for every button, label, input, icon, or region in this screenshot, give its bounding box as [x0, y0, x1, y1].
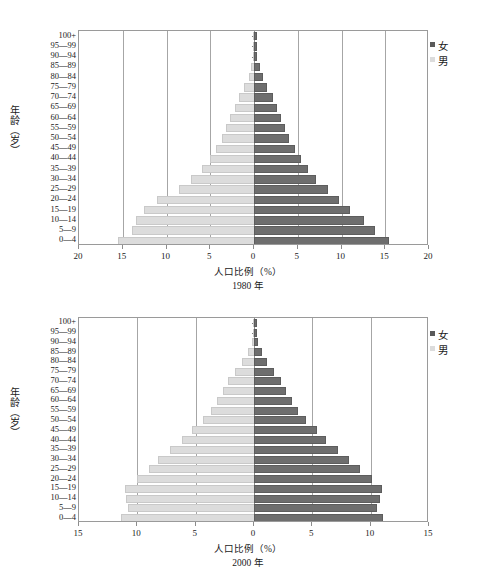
bar-female	[254, 407, 298, 415]
pyramid-row	[79, 514, 427, 522]
legend-swatch-male-icon	[430, 57, 435, 62]
x-axis-tick-mark	[297, 245, 298, 249]
pyramid-row	[79, 226, 427, 234]
y-axis-tick-label: 70—74	[51, 376, 77, 385]
legend-swatch-female-icon	[430, 42, 435, 47]
pyramid-row	[79, 196, 427, 204]
legend-item-female-1980: 女	[430, 38, 448, 53]
bar-female	[254, 52, 257, 60]
bar-male	[182, 436, 256, 444]
y-axis-tick-labels-2000: 100+95—9990—9485—8980—8475—7970—7465—696…	[32, 317, 76, 522]
bar-female	[254, 426, 317, 434]
x-axis-tick-label: 15	[117, 251, 126, 261]
bar-male	[230, 114, 256, 122]
x-axis-tick-mark	[253, 245, 254, 249]
x-axis-tick-mark	[428, 522, 429, 526]
x-axis-tick-label: 10	[365, 528, 374, 538]
y-axis-tick-label: 45—49	[51, 143, 77, 152]
pyramid-row	[79, 216, 427, 224]
y-axis-title-1980: 年龄（岁）	[6, 105, 21, 155]
bar-female	[254, 368, 274, 376]
bar-female	[254, 63, 260, 71]
legend-swatch-female-icon	[430, 331, 435, 336]
legend-item-male-1980: 男	[430, 53, 448, 68]
bar-male	[125, 485, 257, 493]
bar-female	[254, 436, 326, 444]
y-axis-tick-label: 95—99	[51, 327, 77, 336]
bar-female	[254, 456, 349, 464]
legend-label-female: 女	[438, 38, 448, 53]
y-axis-tick-label: 80—84	[51, 72, 77, 81]
bar-female	[254, 104, 277, 112]
pyramid-row	[79, 42, 427, 50]
x-axis-title-1980: 人口比例（%）	[0, 264, 496, 278]
x-axis-tick-label: 5	[309, 528, 314, 538]
year-label-2000: 2000 年	[0, 555, 496, 569]
bar-female	[254, 165, 308, 173]
population-pyramid-figure: 年龄（岁） 100+95—9990—9485—8980—8475—7970—74…	[0, 0, 496, 583]
y-axis-tick-labels-1980: 100+95—9990—9485—8980—8475—7970—7465—696…	[32, 30, 76, 245]
pyramid-row	[79, 93, 427, 101]
bar-male	[217, 397, 256, 405]
pyramid-row	[79, 83, 427, 91]
bar-male	[136, 216, 256, 224]
pyramid-row	[79, 426, 427, 434]
pyramid-row	[79, 52, 427, 60]
y-axis-tick-label: 30—34	[51, 454, 77, 463]
y-axis-tick-label: 50—54	[51, 133, 77, 142]
bar-female	[254, 514, 383, 522]
y-axis-tick-label: 10—14	[51, 493, 77, 502]
y-axis-tick-label: 20—24	[51, 194, 77, 203]
y-axis-tick-label: 75—79	[51, 82, 77, 91]
pyramid-row	[79, 475, 427, 483]
pyramid-row	[79, 397, 427, 405]
bar-male	[132, 226, 257, 234]
bar-female	[254, 93, 273, 101]
bar-male	[226, 124, 256, 132]
y-axis-tick-label: 95—99	[51, 41, 77, 50]
y-axis-tick-label: 0—4	[59, 513, 76, 522]
bar-female	[254, 114, 281, 122]
pyramid-row	[79, 348, 427, 356]
bar-female	[254, 237, 389, 245]
x-axis-tick-label: 0	[251, 251, 256, 261]
y-axis-tick-label: 45—49	[51, 425, 77, 434]
pyramid-row	[79, 495, 427, 503]
pyramid-row	[79, 465, 427, 473]
legend-label-male: 男	[438, 342, 448, 357]
bar-male	[202, 165, 256, 173]
bar-male	[144, 206, 256, 214]
x-axis-tick-mark	[136, 522, 137, 526]
bar-female	[254, 185, 328, 193]
bar-female	[254, 377, 281, 385]
pyramid-row	[79, 32, 427, 40]
bar-male	[128, 504, 256, 512]
pyramid-row	[79, 416, 427, 424]
y-axis-tick-label: 55—59	[51, 123, 77, 132]
bar-male	[121, 514, 256, 522]
x-axis-tick-label: 15	[424, 528, 433, 538]
bar-male	[228, 377, 256, 385]
legend-swatch-male-icon	[430, 346, 435, 351]
chart-2000: 年龄（岁） 100+95—9990—9485—8980—8475—7970—74…	[0, 292, 496, 583]
y-axis-tick-label: 0—4	[59, 235, 76, 244]
bar-female	[254, 226, 375, 234]
y-axis-tick-label: 70—74	[51, 92, 77, 101]
bar-female	[254, 32, 257, 40]
bar-female	[254, 495, 380, 503]
bar-female	[254, 206, 350, 214]
pyramid-row	[79, 145, 427, 153]
legend-label-female: 女	[438, 327, 448, 342]
y-axis-tick-label: 80—84	[51, 356, 77, 365]
legend-item-female-2000: 女	[430, 327, 448, 342]
bar-female	[254, 446, 338, 454]
bar-male	[158, 456, 256, 464]
y-axis-tick-label: 50—54	[51, 415, 77, 424]
pyramid-row	[79, 319, 427, 327]
x-axis-title-2000: 人口比例（%）	[0, 541, 496, 555]
bar-male	[192, 426, 256, 434]
bar-female	[254, 196, 339, 204]
bar-female	[254, 504, 377, 512]
bar-female	[254, 42, 257, 50]
x-axis-tick-label: 0	[251, 528, 256, 538]
